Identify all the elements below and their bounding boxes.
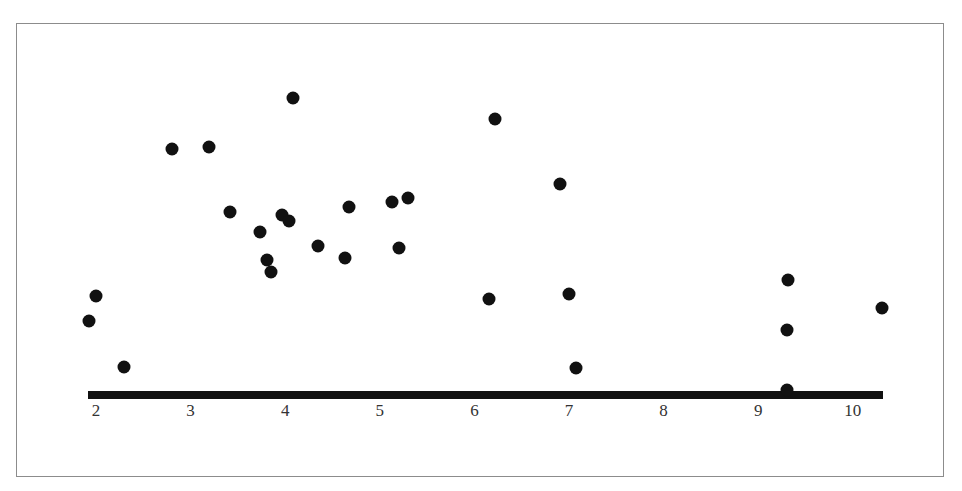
- data-point: [338, 252, 351, 265]
- data-point: [489, 113, 502, 126]
- data-point: [265, 266, 278, 279]
- data-point: [312, 240, 325, 253]
- x-tick-label: 4: [281, 401, 290, 421]
- data-point: [553, 178, 566, 191]
- data-point: [386, 196, 399, 209]
- x-tick-label: 5: [376, 401, 385, 421]
- x-tick-label: 10: [844, 401, 861, 421]
- x-tick-label: 9: [754, 401, 763, 421]
- x-tick-label: 2: [92, 401, 101, 421]
- data-point: [569, 362, 582, 375]
- data-point: [253, 226, 266, 239]
- x-tick-label: 8: [659, 401, 668, 421]
- data-point: [402, 192, 415, 205]
- data-point: [780, 324, 793, 337]
- data-point: [342, 201, 355, 214]
- data-point: [780, 384, 793, 397]
- data-point: [392, 242, 405, 255]
- data-point: [876, 302, 889, 315]
- scatter-plot-area: 2 3 4 5 6 7 8 9 10: [0, 0, 962, 491]
- data-point: [90, 290, 103, 303]
- x-tick-label: 7: [565, 401, 574, 421]
- data-point: [118, 361, 131, 374]
- data-point: [165, 143, 178, 156]
- x-tick-label: 3: [186, 401, 195, 421]
- data-point: [83, 315, 96, 328]
- data-point: [286, 92, 299, 105]
- data-point: [482, 293, 495, 306]
- data-point: [202, 141, 215, 154]
- data-point: [224, 206, 237, 219]
- data-point: [781, 274, 794, 287]
- x-tick-label: 6: [470, 401, 479, 421]
- data-point: [282, 215, 295, 228]
- x-axis-bar: [88, 391, 883, 399]
- data-point: [563, 288, 576, 301]
